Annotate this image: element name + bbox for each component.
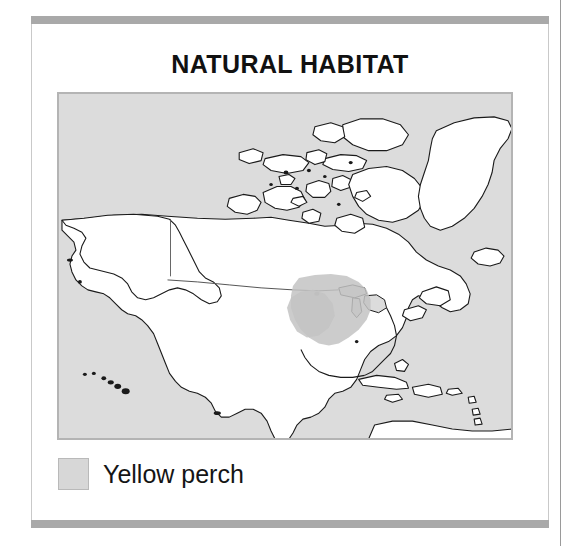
page-edge-rule bbox=[560, 0, 561, 546]
legend-label: Yellow perch bbox=[103, 460, 244, 489]
bottom-rule-bar bbox=[31, 520, 549, 528]
lesser-antilles-c bbox=[474, 418, 482, 425]
prince-of-wales-island bbox=[306, 180, 331, 197]
map-legend: Yellow perch bbox=[58, 458, 244, 490]
habitat-range-swatch bbox=[58, 458, 89, 490]
top-rule-bar bbox=[31, 16, 549, 24]
somerset-island bbox=[332, 176, 351, 191]
lesser-antilles-a bbox=[468, 396, 476, 403]
figure-title: NATURAL HABITAT bbox=[31, 50, 549, 79]
habitat-map bbox=[57, 92, 513, 440]
north-america-map-svg bbox=[58, 93, 512, 439]
hispaniola bbox=[412, 384, 442, 397]
lesser-antilles-b bbox=[472, 408, 480, 415]
